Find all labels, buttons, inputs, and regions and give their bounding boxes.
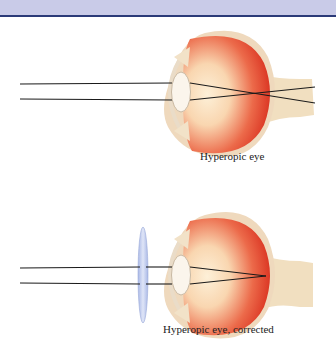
crystalline-lens [172,72,191,112]
eye-diagram-corrected [0,185,336,346]
figure-hyperopic-eye: Hyperopic eye [0,17,336,177]
corrective-lens [138,227,148,323]
crystalline-lens [172,255,191,295]
eyeball [183,36,270,153]
eye-diagram [0,17,336,177]
figure-hyperopic-eye-corrected: Hyperopic eye, corrected [0,185,336,346]
caption-hyperopic-eye-corrected: Hyperopic eye, corrected [163,323,274,335]
header-band [0,0,336,17]
caption-hyperopic-eye: Hyperopic eye [200,150,264,162]
